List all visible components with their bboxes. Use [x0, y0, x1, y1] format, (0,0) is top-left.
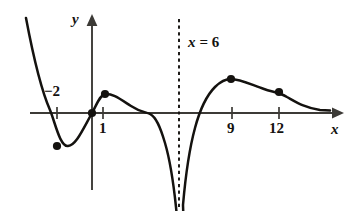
point-origin: [88, 109, 96, 117]
curve-left-branch: [26, 18, 176, 211]
asymptote-label: x= 6: [188, 35, 219, 50]
x-tick-label-neg2: −2: [44, 84, 60, 99]
plot-canvas: [0, 0, 354, 211]
x-tick-label-12: 12: [269, 121, 284, 136]
point-local-min-neg2: [53, 142, 61, 150]
point-local-max-1: [101, 90, 109, 98]
asymptote-label-variable: x: [188, 34, 196, 50]
x-tick-label-9: 9: [227, 121, 235, 136]
point-12: [275, 88, 283, 96]
y-axis: [87, 14, 98, 190]
x-axis: [30, 108, 344, 119]
asymptote-label-value: = 6: [200, 34, 220, 50]
graph-figure: −2 1 9 12 y x x= 6: [0, 0, 354, 211]
x-tick-label-1: 1: [99, 121, 107, 136]
point-local-max-9: [227, 75, 235, 83]
curve-right-branch: [183, 79, 330, 211]
y-axis-label: y: [72, 12, 79, 27]
x-axis-label: x: [331, 122, 339, 137]
